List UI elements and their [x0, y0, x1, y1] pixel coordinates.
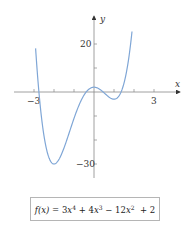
formula-lhs: f(x) [35, 205, 50, 215]
formula-exp: 2 [131, 204, 135, 211]
y-tick-label-neg30: −30 [76, 159, 95, 169]
x-tick-label-neg3: −3 [27, 96, 41, 106]
y-axis-label: y [99, 14, 106, 24]
y-ticks [94, 44, 97, 164]
formula-term: + 2 [137, 205, 155, 215]
formula-box: f(x) = 3x4 + 4x3 − 12x2 + 2 [30, 197, 160, 221]
formula-term: + 4 [76, 205, 94, 215]
formula-eq: = 3 [49, 205, 67, 215]
x-tick-label-3: 3 [151, 96, 157, 106]
function-plot: −3 3 20 −30 y x [0, 0, 184, 195]
formula: f(x) = 3x4 + 4x3 − 12x2 + 2 [35, 204, 155, 215]
x-axis-label: x [175, 79, 180, 89]
function-curve [36, 31, 132, 164]
formula-term: − 12 [103, 205, 126, 215]
y-tick-label-20: 20 [80, 39, 92, 49]
